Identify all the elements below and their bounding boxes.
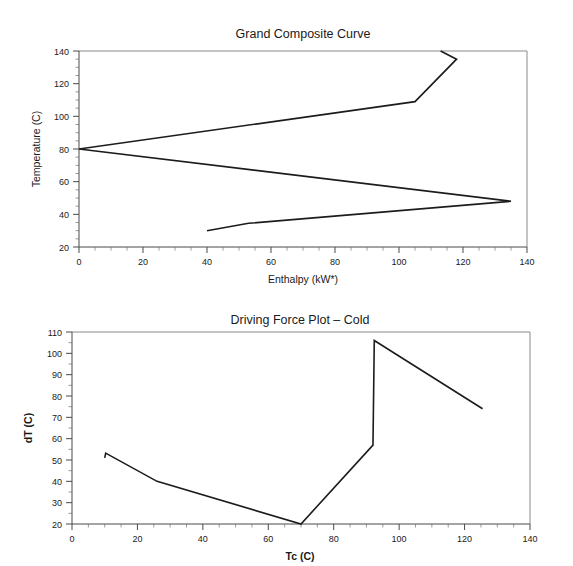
x-axis-title: Enthalpy (kW*) <box>268 273 338 285</box>
x-axis-title: Tc (C) <box>286 550 315 562</box>
y-tick-label: 80 <box>59 145 69 155</box>
y-tick-label: 50 <box>52 456 62 466</box>
y-axis-minor-ticks <box>69 343 73 514</box>
y-tick-label: 60 <box>59 177 69 187</box>
x-axis-minor-ticks <box>95 247 511 251</box>
chart-title: Grand Composite Curve <box>236 27 371 41</box>
plot-frame <box>72 332 530 524</box>
y-tick-label: 70 <box>52 413 62 423</box>
y-tick-label: 110 <box>48 328 62 338</box>
y-tick-label: 80 <box>52 392 62 402</box>
x-tick-label: 40 <box>198 534 208 544</box>
x-tick-label: 100 <box>392 534 407 544</box>
x-tick-label: 60 <box>266 257 276 267</box>
grand-composite-curve-svg: Grand Composite Curve <box>0 0 573 292</box>
y-tick-label: 20 <box>59 243 69 253</box>
x-tick-label: 100 <box>391 257 406 267</box>
x-tick-labels: 0 20 40 60 80 100 120 140 <box>69 534 537 544</box>
y-axis-ticks <box>73 51 79 247</box>
y-axis-title: dT (C) <box>22 413 34 443</box>
data-series-driving-force <box>105 341 483 524</box>
y-tick-label: 60 <box>52 434 62 444</box>
y-tick-label: 100 <box>54 112 69 122</box>
y-tick-label: 20 <box>52 520 62 530</box>
x-tick-label: 0 <box>69 534 74 544</box>
chart-title: Driving Force Plot – Cold <box>231 313 370 327</box>
x-tick-label: 140 <box>522 534 537 544</box>
y-tick-label: 100 <box>47 349 62 359</box>
y-tick-label: 30 <box>52 498 62 508</box>
x-tick-label: 20 <box>132 534 142 544</box>
x-tick-label: 80 <box>330 257 340 267</box>
chart-driving-force-plot-cold: Driving Force Plot – Cold <box>0 292 573 566</box>
y-tick-labels: 140 120 100 80 60 40 20 <box>54 47 69 253</box>
y-axis-title: Temperature (C) <box>30 111 42 187</box>
y-tick-label: 140 <box>54 47 69 57</box>
y-tick-label: 120 <box>54 79 69 89</box>
plot-frame <box>79 51 527 247</box>
x-tick-label: 60 <box>263 534 273 544</box>
x-tick-label: 120 <box>457 534 472 544</box>
y-tick-labels: 110 100 90 80 70 60 50 40 30 20 <box>47 328 62 530</box>
chart-grand-composite-curve: Grand Composite Curve <box>0 0 573 292</box>
x-tick-label: 120 <box>455 257 470 267</box>
x-tick-label: 80 <box>329 534 339 544</box>
y-tick-label: 90 <box>52 370 62 380</box>
x-tick-label: 20 <box>138 257 148 267</box>
y-tick-label: 40 <box>59 210 69 220</box>
y-tick-label: 40 <box>52 477 62 487</box>
figure-page: Grand Composite Curve <box>0 0 573 566</box>
x-tick-label: 140 <box>519 257 534 267</box>
driving-force-plot-svg: Driving Force Plot – Cold <box>0 292 573 566</box>
x-tick-label: 40 <box>202 257 212 267</box>
x-tick-label: 0 <box>76 257 81 267</box>
x-tick-labels: 0 20 40 60 80 100 120 140 <box>76 257 534 267</box>
data-series-grand-composite <box>79 51 511 231</box>
